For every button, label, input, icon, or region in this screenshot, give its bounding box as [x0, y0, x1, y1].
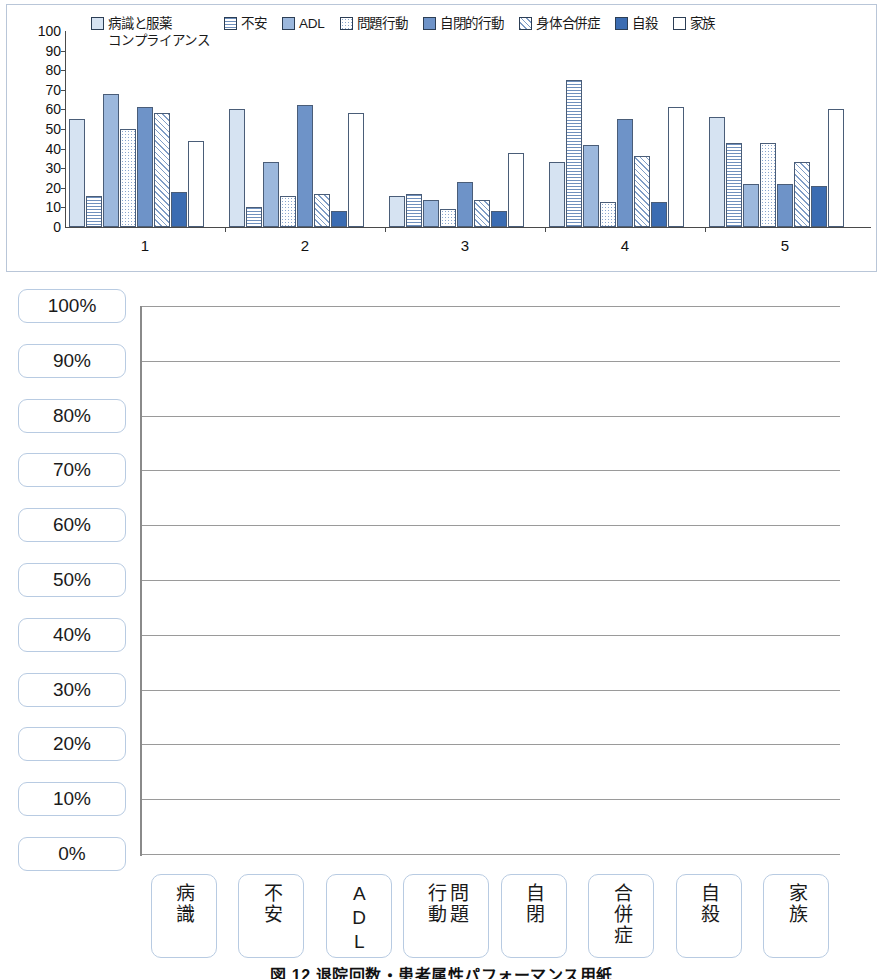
- worksheet-y-label-box: 40%: [18, 618, 126, 652]
- y-axis-tick-mark: [61, 129, 66, 130]
- worksheet-x-label-box: 自殺: [676, 874, 742, 958]
- legend-swatch-kazoku: [673, 17, 686, 30]
- worksheet-y-label-box: 80%: [18, 399, 126, 433]
- y-axis-tick-label: 10: [23, 199, 61, 215]
- x-axis-category-label: 4: [595, 237, 655, 254]
- bar: [794, 162, 810, 227]
- worksheet-gridline: [142, 690, 840, 691]
- top-chart-x-axis-line: [65, 227, 871, 228]
- y-axis-tick-mark: [61, 109, 66, 110]
- bar: [828, 109, 844, 227]
- x-axis-tick-mark: [225, 227, 226, 232]
- legend-item: 問題行動: [340, 15, 408, 32]
- bar: [389, 196, 405, 227]
- bar: [457, 182, 473, 227]
- bar: [811, 186, 827, 227]
- x-axis-category-label: 2: [275, 237, 335, 254]
- bar: [726, 143, 742, 227]
- legend-item: 身体合併症: [519, 15, 600, 32]
- bar: [246, 207, 262, 227]
- legend-swatch-byoshiki: [91, 17, 104, 30]
- legend-item: 家族: [673, 15, 716, 32]
- y-axis-tick-label: 80: [23, 62, 61, 78]
- performance-worksheet: 100%90%80%70%60%50%40%30%20%10%0% 病識不安AD…: [0, 286, 883, 979]
- y-axis-tick-mark: [61, 207, 66, 208]
- bar-group: [69, 31, 205, 227]
- bar: [709, 117, 725, 227]
- worksheet-x-label-text: 問題: [447, 883, 467, 925]
- y-axis-tick-mark: [61, 51, 66, 52]
- legend-swatch-gappei: [519, 17, 532, 30]
- x-axis-tick-mark: [545, 227, 546, 232]
- worksheet-y-label-box: 30%: [18, 673, 126, 707]
- x-axis-tick-mark: [705, 227, 706, 232]
- y-axis-tick-label: 100: [23, 23, 61, 39]
- bar: [600, 202, 616, 227]
- legend-swatch-jihei: [423, 17, 436, 30]
- worksheet-gridline: [142, 470, 840, 471]
- x-axis-tick-mark: [385, 227, 386, 232]
- worksheet-x-label-box: 自閉: [501, 874, 567, 958]
- legend-swatch-jisatsu: [615, 17, 628, 30]
- worksheet-x-label-box: 合併症: [588, 874, 654, 958]
- worksheet-x-label-box: 問題行動: [403, 874, 489, 958]
- legend-item: ADL: [282, 15, 325, 32]
- legend-item-label: 自閉的行動: [440, 15, 504, 32]
- worksheet-x-label-text: 病識: [174, 883, 194, 925]
- worksheet-x-label-text: 自殺: [699, 883, 719, 925]
- worksheet-y-label-box: 50%: [18, 563, 126, 597]
- worksheet-x-axis-labels: 病識不安ADL問題行動自閉合併症自殺家族: [140, 874, 840, 964]
- legend-item: 自閉的行動: [423, 15, 504, 32]
- legend-item: 自殺: [615, 15, 658, 32]
- bar: [491, 211, 507, 227]
- bar: [423, 200, 439, 227]
- worksheet-x-label-box: ADL: [326, 874, 392, 958]
- bar: [154, 113, 170, 227]
- bar: [760, 143, 776, 227]
- y-axis-tick-mark: [61, 90, 66, 91]
- y-axis-tick-label: 90: [23, 43, 61, 59]
- legend-item-label: 問題行動: [357, 15, 408, 32]
- worksheet-gridline: [142, 525, 840, 526]
- legend-swatch-fuan: [224, 17, 237, 30]
- x-axis-category-label: 3: [435, 237, 495, 254]
- legend-item-label: 家族: [690, 15, 716, 32]
- bar: [69, 119, 85, 227]
- bar: [549, 162, 565, 227]
- worksheet-gridline: [142, 361, 840, 362]
- bar: [668, 107, 684, 227]
- bar-group: [549, 31, 685, 227]
- worksheet-y-label-box: 60%: [18, 508, 126, 542]
- legend-item-label: ADL: [299, 15, 325, 32]
- bar: [120, 129, 136, 227]
- y-axis-tick-label: 40: [23, 141, 61, 157]
- bar: [440, 209, 456, 227]
- worksheet-x-label-box: 家族: [763, 874, 829, 958]
- x-axis-category-label: 5: [755, 237, 815, 254]
- worksheet-x-label-text: 家族: [786, 883, 806, 925]
- worksheet-y-label-box: 0%: [18, 837, 126, 871]
- legend-swatch-mondai: [340, 17, 353, 30]
- top-chart-plot-area: [65, 31, 865, 227]
- worksheet-x-label-text-2: 行動: [425, 883, 445, 925]
- bar: [406, 194, 422, 227]
- worksheet-x-label-text: 不安: [261, 883, 281, 925]
- bar-group: [389, 31, 525, 227]
- bar: [137, 107, 153, 227]
- legend-swatch-adl: [282, 17, 295, 30]
- y-axis-tick-label: 0: [23, 219, 61, 235]
- bar: [566, 80, 582, 227]
- legend-item: 不安: [224, 15, 267, 32]
- figure-caption: 図 12 退院回数・患者属性パフォーマンス用紙: [0, 962, 883, 979]
- y-axis-tick-mark: [61, 188, 66, 189]
- worksheet-y-label-box: 90%: [18, 344, 126, 378]
- worksheet-gridline: [142, 580, 840, 581]
- worksheet-x-label-text: 合併症: [611, 883, 631, 946]
- bar: [280, 196, 296, 227]
- y-axis-tick-mark: [61, 149, 66, 150]
- worksheet-gridline: [142, 306, 840, 307]
- top-chart-y-axis-labels: 1009080706050403020100: [15, 31, 61, 228]
- bar: [348, 113, 364, 227]
- worksheet-y-axis-line: [140, 306, 142, 856]
- worksheet-x-label-box: 不安: [238, 874, 304, 958]
